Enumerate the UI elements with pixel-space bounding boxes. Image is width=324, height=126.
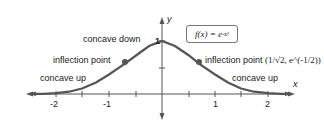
- inflection-point-right: [196, 59, 202, 65]
- function-label-box: f(x) = e-x²: [186, 25, 238, 43]
- function-name: f(x) = e: [195, 29, 222, 39]
- x-tick-neg1: -1: [103, 99, 111, 109]
- y-tick-1: 1: [155, 36, 160, 46]
- y-axis-down-arrow-icon: [160, 113, 165, 120]
- x-tick-1: 1: [213, 99, 218, 109]
- function-exponent: -x²: [222, 31, 229, 37]
- gaussian-curve: [30, 41, 290, 94]
- x-tick-2: 2: [265, 99, 270, 109]
- inflection-left-label: inflection point: [53, 55, 111, 65]
- x-tick-neg2: -2: [50, 99, 58, 109]
- y-axis-up-arrow-icon: [160, 17, 165, 24]
- inflection-right-coords: (1/√2, e^(-1/2)): [265, 55, 321, 65]
- y-axis-label: y: [167, 14, 172, 24]
- inflection-right-label: inflection point (1/√2, e^(-1/2)): [205, 55, 321, 65]
- concave-down-label: concave down: [83, 34, 141, 44]
- concave-up-left-label: concave up: [40, 73, 86, 83]
- concave-up-right-label: concave up: [232, 73, 278, 83]
- inflection-point-left: [122, 59, 128, 65]
- x-axis-label: x: [293, 79, 298, 89]
